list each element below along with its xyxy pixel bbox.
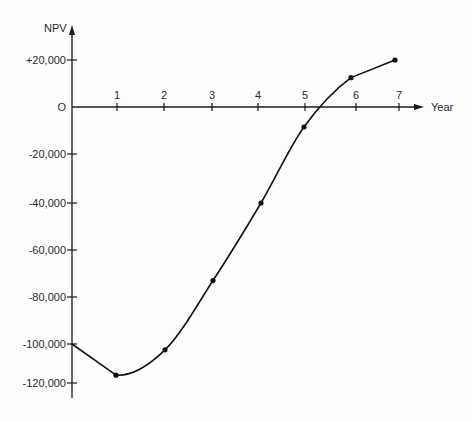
y-tick-label: O: [6, 102, 66, 113]
y-tick-label: -120,000: [6, 378, 66, 389]
y-tick-label: +20,000: [6, 55, 66, 66]
data-point: [392, 57, 397, 62]
x-axis-title: Year: [431, 102, 453, 113]
x-tick-label: 5: [297, 90, 313, 101]
x-tick-label: 7: [391, 90, 407, 101]
y-axis-arrow-icon: [69, 25, 75, 35]
data-point: [162, 347, 167, 352]
y-tick-label: -80,000: [6, 292, 66, 303]
y-tick-label: -100,000: [6, 339, 66, 350]
y-tick-label: -40,000: [6, 198, 66, 209]
y-tick-label: -20,000: [6, 149, 66, 160]
npv-chart: NPV Year +20,000 O -20,000 -40,000 -60,0…: [0, 0, 472, 421]
x-axis-arrow-icon: [414, 104, 424, 110]
chart-canvas: [0, 0, 472, 421]
data-point: [301, 124, 306, 129]
x-tick-label: 2: [156, 90, 172, 101]
data-point: [113, 373, 118, 378]
tick-marks: [67, 60, 399, 383]
x-tick-label: 1: [109, 90, 125, 101]
y-axis-title: NPV: [44, 23, 67, 34]
data-points: [113, 57, 397, 377]
data-point: [258, 200, 263, 205]
y-tick-label: -60,000: [6, 245, 66, 256]
data-point: [210, 278, 215, 283]
x-tick-label: 3: [204, 90, 220, 101]
data-point: [348, 75, 353, 80]
x-tick-label: 4: [250, 90, 266, 101]
x-tick-label: 6: [348, 90, 364, 101]
